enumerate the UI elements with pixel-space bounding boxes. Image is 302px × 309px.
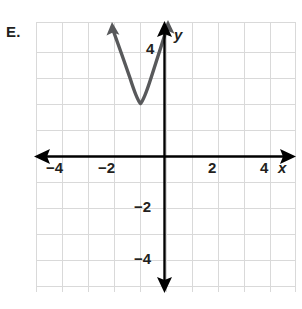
coordinate-plane	[36, 22, 296, 292]
y-tick-label-neg4: −4	[134, 251, 151, 266]
x-tick-label-neg4: −4	[46, 160, 63, 175]
x-tick-label-2: 2	[208, 160, 216, 175]
x-axis-label: x	[278, 160, 286, 175]
y-tick-label-4: 4	[146, 41, 154, 56]
x-tick-label-4: 4	[260, 160, 268, 175]
multiple-choice-graph-figure: E.	[0, 0, 302, 309]
y-tick-label-neg2: −2	[134, 199, 151, 214]
y-axis-label: y	[174, 27, 182, 42]
x-tick-label-neg2: −2	[98, 160, 115, 175]
